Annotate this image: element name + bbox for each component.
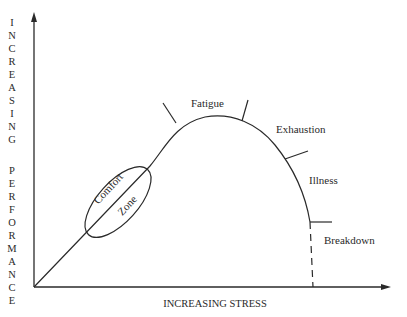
y-letter: N — [8, 121, 16, 132]
y-letter: G — [8, 134, 16, 145]
fatigue-label: Fatigue — [191, 97, 224, 109]
y-letter: M — [7, 243, 17, 254]
y-letter: E — [9, 69, 15, 80]
y-letter: C — [8, 43, 15, 54]
comfort-label: Comfort — [91, 171, 125, 206]
y-letter: E — [9, 295, 15, 306]
y-letter: R — [8, 191, 15, 202]
y-axis-label: I N C R E A S I N G P E R F O R M A N C … — [7, 17, 17, 306]
zone-label: Zone — [115, 193, 139, 218]
performance-curve — [34, 116, 310, 287]
y-letter: C — [8, 282, 15, 293]
x-axis-label: INCREASING STRESS — [163, 298, 267, 309]
breakdown-label: Breakdown — [324, 234, 375, 246]
y-letter: N — [8, 30, 16, 41]
y-letter: O — [8, 217, 16, 228]
fatigue-start-tick — [163, 103, 176, 123]
y-letter: R — [8, 56, 15, 67]
comfort-zone-ellipse — [74, 156, 163, 248]
y-letter: A — [8, 256, 16, 267]
x-axis — [34, 284, 391, 290]
breakdown-dashed-line — [310, 222, 313, 287]
y-letter: N — [8, 269, 16, 280]
y-letter: I — [10, 17, 14, 28]
exhaustion-end-tick — [285, 151, 308, 159]
y-letter: I — [10, 108, 14, 119]
illness-label: Illness — [309, 174, 338, 186]
y-letter: P — [9, 165, 15, 176]
y-letter: A — [8, 82, 16, 93]
x-axis-arrow-icon — [381, 284, 391, 290]
y-axis-arrow-icon — [31, 12, 37, 22]
y-letter: E — [9, 178, 15, 189]
y-axis — [31, 12, 37, 287]
stress-performance-diagram: I N C R E A S I N G P E R F O R M A N C … — [0, 0, 407, 317]
y-letter: R — [8, 230, 15, 241]
y-letter: F — [9, 204, 15, 215]
exhaustion-label: Exhaustion — [276, 123, 326, 135]
y-letter: S — [9, 95, 15, 106]
fatigue-end-tick — [242, 100, 248, 121]
